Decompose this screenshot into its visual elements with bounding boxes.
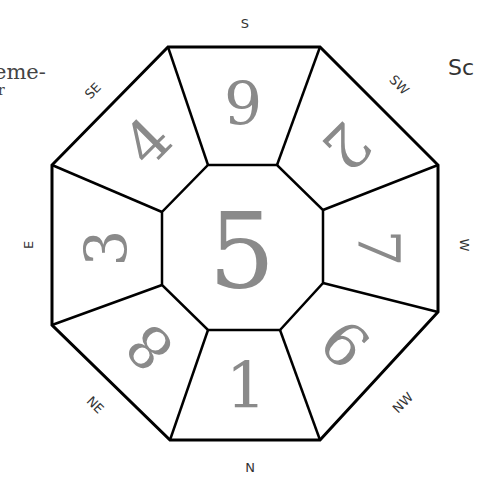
numeral-southeast: 4 xyxy=(109,103,186,180)
label-north: N xyxy=(245,460,255,475)
label-east: E xyxy=(21,241,36,249)
label-northwest: NW xyxy=(390,389,417,416)
bagua-octagon-diagram: 5 9 1 3 7 4 2 8 6 S N E W SE SW NE NW xyxy=(0,0,478,490)
label-west: W xyxy=(457,239,472,252)
numeral-southwest: 2 xyxy=(308,108,385,185)
numeral-south: 9 xyxy=(224,69,262,139)
numeral-north: 1 xyxy=(226,349,267,423)
label-south: S xyxy=(241,16,249,31)
numeral-center: 5 xyxy=(209,191,276,313)
numeral-northeast: 8 xyxy=(113,310,187,384)
numeral-east: 3 xyxy=(72,230,140,267)
label-southwest: SW xyxy=(386,72,412,98)
label-northeast: NE xyxy=(84,393,107,416)
numeral-northwest: 6 xyxy=(306,306,383,383)
label-southeast: SE xyxy=(82,80,104,102)
numeral-west: 7 xyxy=(344,230,412,267)
